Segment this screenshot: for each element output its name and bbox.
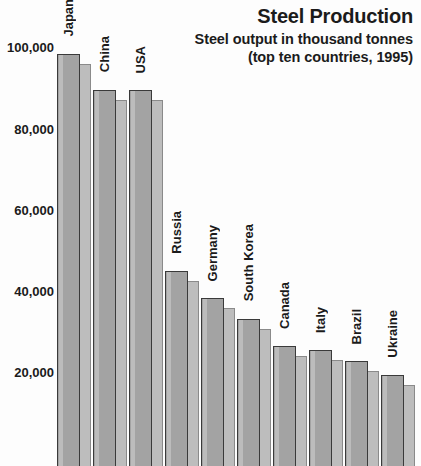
y-axis-tick-label: 20,000 (0, 364, 54, 379)
bar-category-label: Japan (57, 0, 80, 37)
bar-category-label: Italy (309, 307, 332, 333)
bar[interactable] (381, 375, 404, 466)
bar[interactable] (309, 350, 332, 466)
bar-category-label: USA (129, 46, 152, 73)
bar[interactable] (129, 90, 152, 466)
bar-category-label: Canada (273, 282, 296, 329)
bar[interactable] (345, 361, 368, 466)
bar-group: USA (129, 0, 165, 466)
chart-page: Steel Production Steel output in thousan… (0, 0, 421, 466)
y-axis-tick-label: 80,000 (0, 121, 54, 136)
bar[interactable] (57, 54, 80, 466)
y-axis-tick-label: 40,000 (0, 283, 54, 298)
y-axis-tick-label: 100,000 (0, 40, 54, 55)
bar[interactable] (93, 90, 116, 466)
bar[interactable] (201, 298, 224, 466)
bar-group: Japan (57, 0, 93, 466)
bar-category-label: Ukraine (381, 310, 404, 358)
bar-group: Ukraine (381, 0, 417, 466)
bar-group: Canada (273, 0, 309, 466)
bar-category-label: China (93, 36, 116, 72)
bar-group: South Korea (237, 0, 273, 466)
plot-area: 20,00040,00060,00080,000100,000JapanChin… (0, 0, 421, 466)
y-axis-tick-label: 60,000 (0, 202, 54, 217)
bar[interactable] (165, 271, 188, 466)
bar-group: Italy (309, 0, 345, 466)
bar-category-label: Russia (165, 211, 188, 254)
bar-category-label: Brazil (345, 309, 368, 344)
bar-category-label: South Korea (237, 224, 260, 301)
bar-group: China (93, 0, 129, 466)
bar-group: Brazil (345, 0, 381, 466)
bar-category-label: Germany (201, 225, 224, 281)
bar-group: Germany (201, 0, 237, 466)
bar[interactable] (273, 346, 296, 466)
bar[interactable] (237, 319, 260, 466)
bar-group: Russia (165, 0, 201, 466)
